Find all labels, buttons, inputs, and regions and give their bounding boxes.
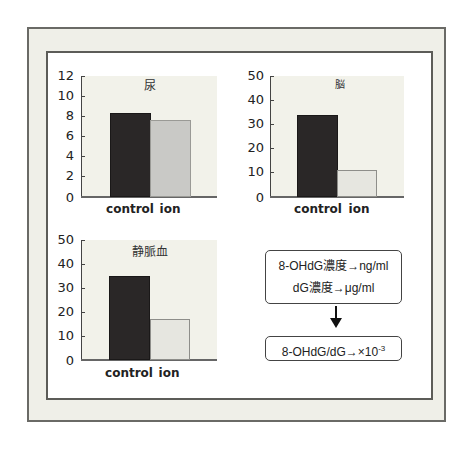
ratio-units-text: 8-OHdG/dG→×10 — [282, 345, 378, 359]
bar-ion — [150, 319, 190, 360]
bar-control — [297, 115, 338, 197]
category-label-control: control — [105, 202, 155, 216]
y-tick-label: 10 — [48, 89, 74, 103]
y-tick-label: 6 — [48, 129, 74, 143]
chart-title: 静脈血 — [125, 242, 175, 259]
ratio-units-box: 8-OHdG/dG→×10-3 — [265, 336, 402, 361]
y-tick-label: 4 — [48, 149, 74, 163]
y-tick-label: 20 — [238, 141, 264, 155]
units-box: 8-OHdG濃度→ng/ml dG濃度→μg/ml — [265, 250, 402, 304]
y-tick-label: 12 — [48, 69, 74, 83]
y-tick-label: 30 — [238, 117, 264, 131]
y-tick-label: 0 — [48, 354, 74, 368]
units-line-dg: dG濃度→μg/ml — [266, 277, 401, 299]
category-label-ion: ion — [155, 202, 185, 216]
y-tick-label: 20 — [48, 305, 74, 319]
bar-ion — [150, 120, 191, 197]
y-tick-label: 10 — [48, 329, 74, 343]
units-line-8ohdg: 8-OHdG濃度→ng/ml — [266, 255, 401, 277]
y-tick-label: 2 — [48, 169, 74, 183]
y-axis — [270, 76, 271, 197]
category-label-ion: ion — [344, 202, 374, 216]
y-tick-label: 0 — [48, 191, 74, 205]
chart-title: 脳 — [325, 76, 355, 91]
bar-ion — [337, 170, 377, 197]
ratio-units-exponent: -3 — [378, 344, 385, 353]
y-tick-label: 50 — [48, 233, 74, 247]
chart-title: 尿 — [135, 76, 165, 93]
y-tick-label: 10 — [238, 165, 264, 179]
y-axis — [81, 240, 82, 360]
y-tick-label: 50 — [238, 69, 264, 83]
y-tick-label: 40 — [238, 93, 264, 107]
category-label-control: control — [104, 366, 154, 380]
arrow-down-icon — [330, 318, 342, 328]
y-tick-label: 40 — [48, 257, 74, 271]
bar-control — [109, 276, 150, 360]
y-tick-label: 0 — [238, 191, 264, 205]
y-tick-label: 30 — [48, 281, 74, 295]
bar-control — [110, 113, 151, 197]
y-tick-label: 8 — [48, 109, 74, 123]
category-label-control: control — [293, 202, 343, 216]
category-label-ion: ion — [154, 366, 184, 380]
